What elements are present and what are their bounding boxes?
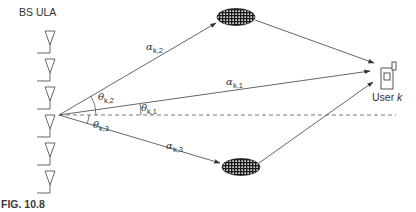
svg-text:k,3: k,3 (99, 124, 109, 133)
antenna-element-icon (37, 171, 55, 193)
antenna-element-icon (37, 87, 55, 109)
svg-text:α: α (226, 76, 233, 87)
path-k3-to-user (259, 82, 373, 163)
svg-text:α: α (146, 41, 153, 52)
user-phone-icon (381, 62, 396, 89)
multipath-diagram: BS ULA θ k (0, 0, 416, 212)
alpha-k1-label: α k,1 (226, 76, 243, 90)
svg-text:k,3: k,3 (173, 145, 183, 154)
svg-text:k,1: k,1 (233, 81, 243, 90)
svg-text:α: α (166, 140, 173, 151)
antenna-element-icon (37, 59, 55, 81)
user-label-var: k (397, 91, 403, 103)
antenna-element-icon (37, 143, 55, 165)
svg-text:User k: User k (372, 91, 403, 103)
scatterer-bottom-icon (222, 159, 260, 176)
theta-k3-label: θ k,3 (93, 119, 109, 133)
alpha-k2-label: α k,2 (146, 41, 163, 55)
bs-ula-label: BS ULA (19, 6, 56, 18)
theta-k1-label: θ k,1 (141, 102, 157, 116)
svg-text:k,2: k,2 (104, 96, 114, 105)
path-k3-to-scatterer (59, 115, 220, 163)
antenna-element-icon (37, 31, 55, 53)
alpha-k3-label: α k,3 (166, 140, 183, 154)
theta-k2-label: θ k,2 (98, 91, 114, 105)
antenna-array (37, 31, 55, 193)
svg-text:k,2: k,2 (153, 46, 163, 55)
user-label: User k (372, 91, 403, 103)
theta-k2-arc (91, 96, 96, 115)
antenna-element-icon (37, 115, 55, 137)
theta-k3-arc (87, 115, 89, 124)
scatterer-top-icon (217, 9, 255, 26)
path-k1-direct (59, 71, 370, 115)
user-label-prefix: User (372, 91, 397, 103)
figure-caption: FIG. 10.8 (1, 198, 45, 210)
path-k2-to-scatterer (59, 23, 216, 115)
path-k2-to-user (255, 20, 374, 63)
svg-text:k,1: k,1 (147, 107, 157, 116)
